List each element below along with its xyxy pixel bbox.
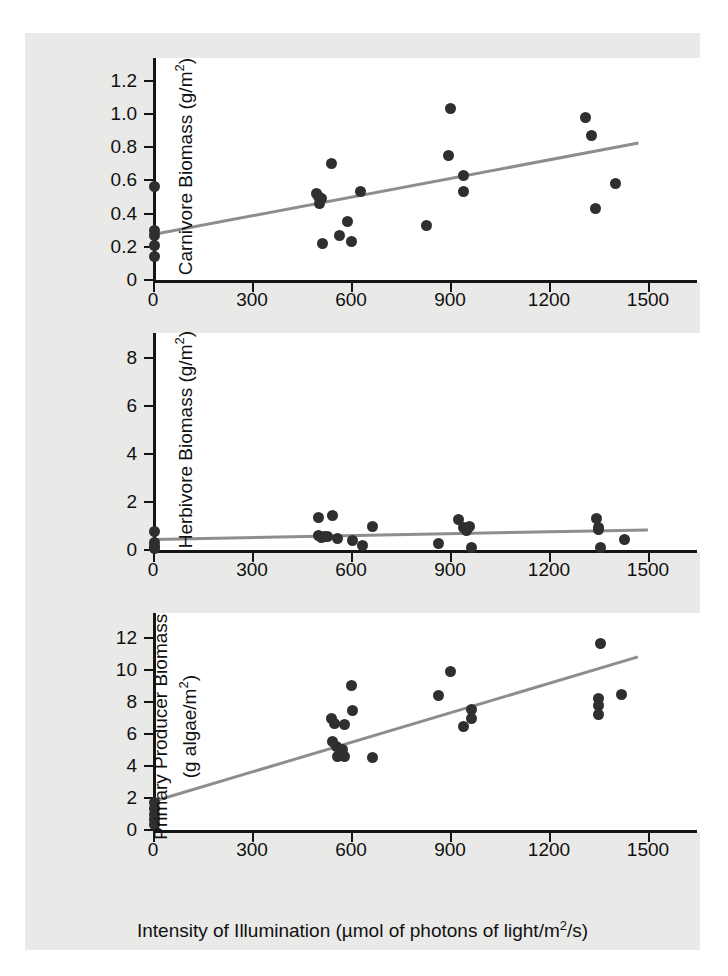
x-tick-label: 600 [311, 290, 391, 309]
data-point [347, 705, 358, 716]
data-point [346, 680, 357, 691]
data-point [595, 542, 606, 553]
data-point [313, 512, 324, 523]
y-tick [144, 80, 153, 82]
y-tick-label: 0 [75, 820, 137, 839]
y-tick-label: 8 [75, 348, 137, 367]
data-point [339, 751, 350, 762]
data-point [149, 240, 160, 251]
plot-area [155, 613, 713, 832]
data-point [149, 230, 160, 241]
y-tick [144, 453, 153, 455]
data-point [332, 533, 343, 544]
y-tick-label: 0.8 [75, 137, 137, 156]
data-point [445, 666, 456, 677]
data-point [339, 719, 350, 730]
x-axis-line [153, 830, 697, 833]
x-tick-label: 1500 [608, 290, 688, 309]
x-tick-label: 600 [311, 560, 391, 579]
y-tick [144, 405, 153, 407]
data-point [595, 638, 606, 649]
y-axis-title: Herbivore Biomass (g/m2) [169, 290, 196, 590]
data-point [346, 236, 357, 247]
chart-panel-carnivore: 00.20.40.60.81.01.2030060090012001500Car… [153, 58, 683, 298]
y-tick-label: 4 [75, 444, 137, 463]
y-axis-title: Carnivore Biomass (g/m2) [169, 17, 196, 317]
y-tick-label: 1.0 [75, 104, 137, 123]
data-point [421, 220, 432, 231]
x-tick-label: 1500 [608, 560, 688, 579]
y-tick-label: 4 [75, 756, 137, 775]
y-tick [144, 113, 153, 115]
x-tick-label: 900 [410, 290, 490, 309]
y-tick-label: 0 [75, 540, 137, 559]
x-tick-label: 300 [212, 840, 292, 859]
y-tick [144, 279, 153, 281]
plot-area [155, 58, 713, 282]
x-tick-label: 1200 [509, 560, 589, 579]
y-tick-label: 6 [75, 396, 137, 415]
y-tick-label: 2 [75, 788, 137, 807]
x-tick-label: 900 [410, 840, 490, 859]
y-tick-label: 0 [75, 270, 137, 289]
data-point [610, 178, 621, 189]
chart-panel-primary-producer: 024681012030060090012001500Primary Produ… [153, 613, 683, 848]
y-tick [144, 146, 153, 148]
x-axis-title: Intensity of Illumination (µmol of photo… [25, 918, 700, 942]
data-point [590, 203, 601, 214]
figure-container: 00.20.40.60.81.01.2030060090012001500Car… [25, 33, 700, 950]
y-tick [144, 213, 153, 215]
data-point [443, 150, 454, 161]
x-tick-label: 1500 [608, 840, 688, 859]
y-tick-label: 10 [75, 660, 137, 679]
data-point [616, 689, 627, 700]
data-point [580, 112, 591, 123]
y-axis-title: Primary Producer Biomass(g algae/m2) [149, 577, 200, 877]
data-point [326, 158, 337, 169]
x-tick-label: 300 [212, 290, 292, 309]
data-point [466, 542, 477, 553]
data-point [433, 538, 444, 549]
x-tick-label: 1200 [509, 290, 589, 309]
y-tick-label: 0.4 [75, 204, 137, 223]
plot-area [155, 333, 713, 552]
y-tick-label: 2 [75, 492, 137, 511]
y-tick-label: 0.6 [75, 170, 137, 189]
y-tick-label: 8 [75, 692, 137, 711]
data-point [445, 103, 456, 114]
x-axis-line [153, 550, 697, 553]
x-tick-label: 300 [212, 560, 292, 579]
y-tick [144, 501, 153, 503]
y-tick-label: 0.2 [75, 237, 137, 256]
data-point [464, 521, 475, 532]
y-tick-label: 1.2 [75, 71, 137, 90]
data-point [334, 230, 345, 241]
y-tick [144, 357, 153, 359]
data-point [367, 521, 378, 532]
x-axis-line [153, 280, 697, 283]
y-tick-label: 12 [75, 628, 137, 647]
data-point [367, 752, 378, 763]
x-tick-label: 600 [311, 840, 391, 859]
x-tick-label: 900 [410, 560, 490, 579]
data-point [149, 526, 160, 537]
data-point [466, 713, 477, 724]
data-point [458, 170, 469, 181]
chart-panel-herbivore: 02468030060090012001500Herbivore Biomass… [153, 333, 683, 568]
y-axis-line [153, 333, 156, 552]
y-tick-label: 6 [75, 724, 137, 743]
x-tick-label: 1200 [509, 840, 589, 859]
